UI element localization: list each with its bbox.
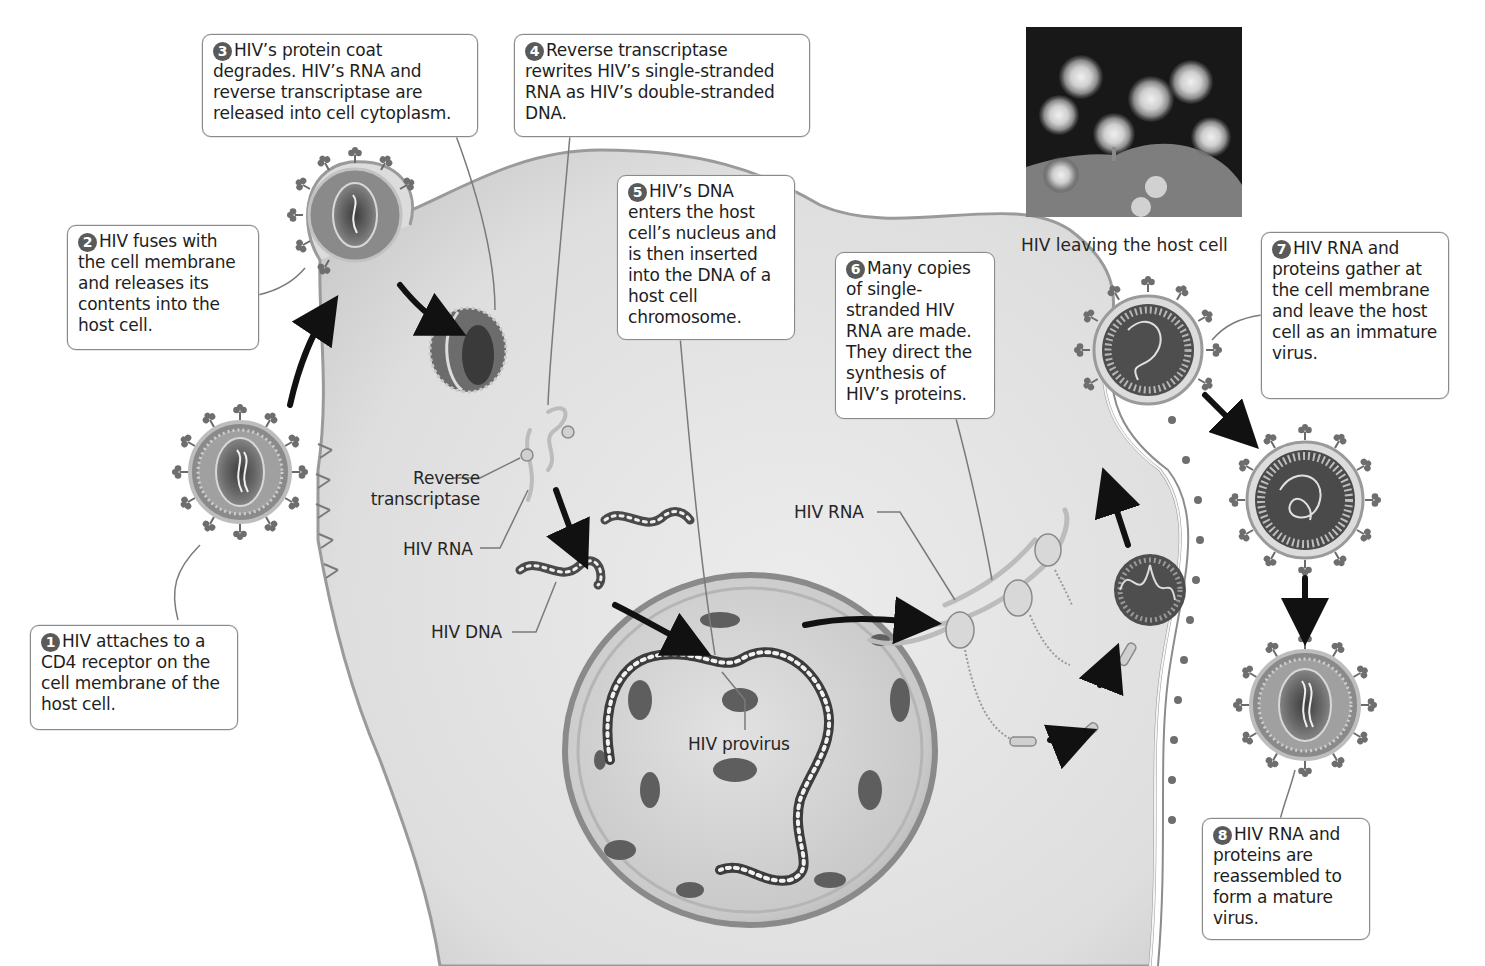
step-6-callout: 6Many copies of single-stranded HIV RNA … xyxy=(835,252,995,419)
step-5-callout: 5HIV’s DNA enters the host cell’s nucleu… xyxy=(617,175,795,340)
step-3-text: HIV’s protein coat degrades. HIV’s RNA a… xyxy=(213,40,451,123)
step-1-text: HIV attaches to a CD4 receptor on the ce… xyxy=(41,631,220,714)
label-hiv-rna-left: HIV RNA xyxy=(403,539,473,560)
step-2-text: HIV fuses with the cell membrane and rel… xyxy=(78,231,236,335)
step-2-callout: 2HIV fuses with the cell membrane and re… xyxy=(67,225,259,350)
step-4-text: Reverse transcriptase rewrites HIV’s sin… xyxy=(525,40,775,123)
step-7-callout: 7HIV RNA and proteins gather at the cell… xyxy=(1261,232,1449,399)
step-3-callout: 3HIV’s protein coat degrades. HIV’s RNA … xyxy=(202,34,478,137)
label-hiv-rna-right: HIV RNA xyxy=(794,502,864,523)
label-hiv-provirus: HIV provirus xyxy=(688,734,790,755)
arrow-attach-to-fuse xyxy=(290,315,325,405)
step-6-badge: 6 xyxy=(846,260,865,279)
released-immature-virus xyxy=(1229,424,1381,576)
step-4-badge: 4 xyxy=(525,42,544,61)
label-reverse-line-2: transcriptase xyxy=(360,489,480,510)
label-reverse-line-1: Reverse xyxy=(360,468,480,489)
hiv-virion-attaching xyxy=(172,404,308,540)
hiv-life-cycle-diagram: HIV leaving the host cell 1HIV attaches … xyxy=(0,0,1485,966)
label-reverse-transcriptase: Reverse transcriptase xyxy=(360,468,480,510)
label-hiv-dna: HIV DNA xyxy=(431,622,502,643)
step-5-badge: 5 xyxy=(628,183,647,202)
mature-virus xyxy=(1233,633,1377,777)
step-1-callout: 1HIV attaches to a CD4 receptor on the c… xyxy=(30,625,238,730)
step-8-callout: 8HIV RNA and proteins are reassembled to… xyxy=(1202,818,1370,940)
step-5-text: HIV’s DNA enters the host cell’s nucleus… xyxy=(628,181,776,327)
step-6-text: Many copies of single-stranded HIV RNA a… xyxy=(846,258,972,404)
step-1-badge: 1 xyxy=(41,633,60,652)
micrograph-hiv-leaving-cell xyxy=(1026,27,1242,217)
assembling-capsid xyxy=(1114,554,1186,626)
arrow-bud-to-release xyxy=(1205,395,1242,432)
step-8-badge: 8 xyxy=(1213,826,1232,845)
step-2-badge: 2 xyxy=(78,233,97,252)
step-7-badge: 7 xyxy=(1272,240,1291,259)
micrograph-caption: HIV leaving the host cell xyxy=(1021,235,1228,255)
step-3-badge: 3 xyxy=(213,42,232,61)
step-7-text: HIV RNA and proteins gather at the cell … xyxy=(1272,238,1437,363)
arrow-protein-to-capsid xyxy=(1050,738,1075,741)
step-8-text: HIV RNA and proteins are reassembled to … xyxy=(1213,824,1342,928)
step-4-callout: 4Reverse transcriptase rewrites HIV’s si… xyxy=(514,34,810,137)
micrograph-image xyxy=(1026,27,1242,217)
